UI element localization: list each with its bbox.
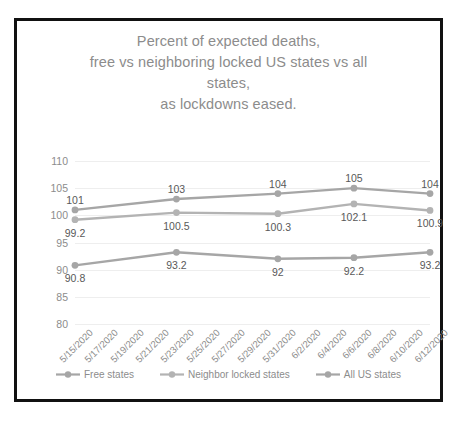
data-point-marker	[274, 210, 281, 217]
data-point-marker	[351, 254, 358, 261]
data-point-label: 93.2	[166, 259, 186, 271]
data-point-label: 92	[272, 266, 284, 278]
data-point-label: 104	[269, 178, 287, 190]
legend-marker-icon	[56, 365, 80, 383]
series-lines	[75, 161, 430, 324]
series-line	[75, 204, 430, 220]
legend-marker-icon	[160, 365, 184, 383]
chart-title-line-4: as lockdowns eased.	[17, 94, 440, 115]
series-line	[75, 252, 430, 265]
chart-title-line-2: free vs neighboring locked US states vs …	[17, 52, 440, 73]
legend-label: Free states	[84, 369, 134, 380]
chart-frame: Percent of expected deaths, free vs neig…	[14, 18, 443, 402]
data-point-label: 93.2	[420, 259, 440, 271]
data-point-marker	[72, 216, 79, 223]
data-point-marker	[274, 190, 281, 197]
data-point-label: 100.3	[265, 221, 291, 233]
data-point-label: 105	[345, 172, 363, 184]
data-point-marker	[427, 249, 434, 256]
y-axis-tick-label: 80	[56, 318, 68, 330]
data-point-label: 101	[66, 194, 84, 206]
data-point-marker	[427, 207, 434, 214]
data-point-label: 90.8	[65, 272, 85, 284]
y-axis-tick-label: 110	[51, 155, 68, 167]
data-point-marker	[173, 209, 180, 216]
y-axis-tick-label: 100	[50, 209, 68, 221]
y-axis-tick-label: 85	[56, 291, 68, 303]
data-point-marker	[351, 185, 358, 192]
chart-title-line-1: Percent of expected deaths,	[17, 31, 440, 52]
data-point-label: 92.2	[344, 265, 364, 277]
data-point-label: 104	[421, 178, 439, 190]
y-axis-tick-label: 105	[50, 182, 68, 194]
data-point-label: 103	[168, 183, 186, 195]
data-point-marker	[173, 249, 180, 256]
legend-item[interactable]: All US states	[316, 365, 401, 383]
gridline	[75, 324, 430, 325]
data-point-label: 100.9	[417, 217, 443, 229]
data-point-marker	[274, 255, 281, 262]
legend-item[interactable]: Neighbor locked states	[160, 365, 290, 383]
data-point-marker	[72, 262, 79, 269]
data-point-marker	[173, 196, 180, 203]
chart-title-line-3: states,	[17, 73, 440, 94]
data-point-marker	[72, 207, 79, 214]
legend-item[interactable]: Free states	[56, 365, 134, 383]
plot-area: 11010510095908580 90.893.29292.293.299.2…	[75, 161, 430, 324]
data-point-label: 102.1	[341, 211, 367, 223]
legend-marker-icon	[316, 365, 340, 383]
data-point-label: 99.2	[65, 227, 85, 239]
data-point-marker	[427, 190, 434, 197]
legend-label: Neighbor locked states	[188, 369, 290, 380]
chart-legend: Free statesNeighbor locked statesAll US …	[17, 365, 440, 383]
data-point-label: 100.5	[163, 220, 189, 232]
legend-label: All US states	[344, 369, 401, 380]
chart-title: Percent of expected deaths, free vs neig…	[17, 31, 440, 115]
data-point-marker	[351, 201, 358, 208]
